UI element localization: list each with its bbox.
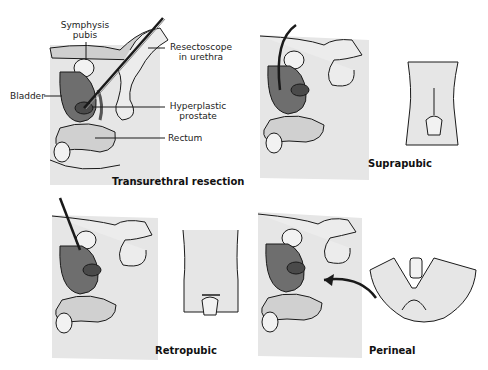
label-rectum: Rectum bbox=[168, 133, 202, 143]
sagittal-pelvis-illustration bbox=[244, 190, 488, 370]
label-symphysis-pubis: Symphysis pubis bbox=[60, 20, 110, 40]
sagittal-pelvis-illustration bbox=[244, 0, 488, 190]
panel-perineal: Perineal bbox=[244, 190, 488, 370]
panel-suprapubic: Suprapubic bbox=[244, 0, 488, 190]
panel-retropubic: Retropubic bbox=[0, 190, 244, 370]
sagittal-pelvis-illustration bbox=[0, 190, 244, 370]
caption-perineal: Perineal bbox=[369, 345, 416, 356]
label-hyperplastic-prostate: Hyperplastic prostate bbox=[168, 101, 228, 121]
label-resectoscope: Resectoscope in urethra bbox=[166, 42, 236, 62]
label-bladder: Bladder bbox=[10, 91, 45, 101]
panel-transurethral: Symphysis pubis Resectoscope in urethra … bbox=[0, 0, 244, 190]
caption-transurethral: Transurethral resection bbox=[112, 176, 244, 187]
caption-retropubic: Retropubic bbox=[155, 345, 217, 356]
caption-suprapubic: Suprapubic bbox=[368, 158, 432, 169]
